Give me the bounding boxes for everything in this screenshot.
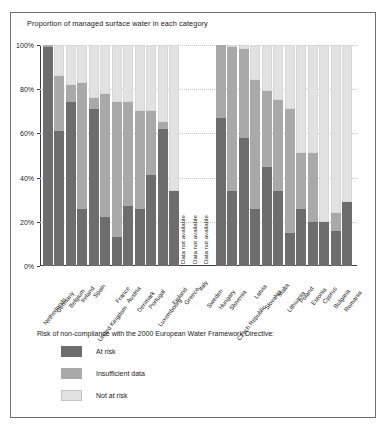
legend-swatch-icon bbox=[61, 390, 82, 401]
bar-segment-insufficient bbox=[100, 94, 110, 218]
bar-segment-insufficient bbox=[239, 49, 249, 137]
bar-segment-not-at-risk bbox=[262, 45, 272, 91]
plot-area: 100%80%60%40%20%0% NetherlandsGermanyBel… bbox=[40, 45, 357, 266]
bar-segment-at-risk bbox=[146, 175, 156, 266]
bar-segment-not-at-risk bbox=[54, 45, 64, 76]
bar-segment-at-risk bbox=[216, 118, 226, 266]
bar-segment-not-at-risk bbox=[169, 45, 179, 191]
bar-greece-no-data: Data not available bbox=[181, 45, 191, 266]
data-not-available-label: Data not available bbox=[179, 215, 186, 264]
bar-segment-not-at-risk bbox=[112, 45, 122, 102]
bar-segment-at-risk bbox=[250, 209, 260, 266]
bar-segment-insufficient bbox=[250, 80, 260, 208]
bar-segment-insufficient bbox=[285, 109, 295, 233]
bar-united-kingdom bbox=[100, 45, 110, 266]
bar-romania bbox=[342, 45, 352, 266]
bar-denmark bbox=[135, 45, 145, 266]
y-tick-label: 0% bbox=[24, 263, 34, 270]
bar-segment-at-risk bbox=[100, 217, 110, 266]
bar-segment-insufficient bbox=[158, 122, 168, 129]
bar-segment-insufficient bbox=[296, 153, 306, 208]
page-title: Proportion of managed surface water in e… bbox=[27, 19, 208, 28]
y-tick-mark bbox=[37, 178, 40, 179]
bar-segment-at-risk bbox=[77, 209, 87, 266]
legend-swatch-icon bbox=[61, 346, 82, 357]
bar-austria bbox=[123, 45, 133, 266]
bar-segment-not-at-risk bbox=[273, 45, 283, 100]
bar-segment-insufficient bbox=[135, 111, 145, 208]
y-tick-label: 40% bbox=[20, 174, 34, 181]
bar-luxembourg bbox=[158, 45, 168, 266]
bar-segment-not-at-risk bbox=[146, 45, 156, 111]
legend-item-not-at-risk[interactable]: Not at risk bbox=[61, 390, 347, 401]
bar-segment-at-risk bbox=[227, 191, 237, 266]
bar-cyprus bbox=[319, 45, 329, 266]
bar-segment-insufficient bbox=[216, 45, 226, 118]
bar-hungary bbox=[216, 45, 226, 266]
y-tick-mark bbox=[37, 133, 40, 134]
bar-segment-not-at-risk bbox=[100, 45, 110, 94]
y-tick-label: 60% bbox=[20, 130, 34, 137]
bar-segment-at-risk bbox=[285, 233, 295, 266]
legend-items: At riskInsufficient dataNot at risk bbox=[37, 346, 347, 401]
bar-belgium bbox=[66, 45, 76, 266]
data-not-available-label: Data not available bbox=[202, 215, 209, 264]
legend-item-label: Not at risk bbox=[96, 392, 128, 399]
legend-item-at-risk[interactable]: At risk bbox=[61, 346, 347, 357]
bar-segment-insufficient bbox=[262, 91, 272, 166]
bar-segment-not-at-risk bbox=[308, 45, 318, 153]
bar-segment-insufficient bbox=[66, 85, 76, 103]
y-tick-label: 100% bbox=[16, 42, 34, 49]
bar-bulgaria bbox=[331, 45, 341, 266]
bar-slovenia bbox=[227, 45, 237, 266]
chart-legend: Risk of non-compliance with the 2000 Eur… bbox=[37, 330, 347, 412]
bar-segment-at-risk bbox=[273, 191, 283, 266]
bar-segment-at-risk bbox=[43, 47, 53, 266]
bar-segment-at-risk bbox=[262, 167, 272, 266]
bar-segment-not-at-risk bbox=[296, 45, 306, 153]
bar-segment-not-at-risk bbox=[285, 45, 295, 109]
bar-segment-not-at-risk bbox=[158, 45, 168, 122]
bar-segment-insufficient bbox=[123, 102, 133, 206]
bar-segment-insufficient bbox=[227, 47, 237, 191]
bar-segment-at-risk bbox=[54, 131, 64, 266]
legend-item-label: At risk bbox=[96, 348, 115, 355]
bar-ireland bbox=[77, 45, 87, 266]
bar-segment-insufficient bbox=[112, 102, 122, 237]
y-tick-label: 80% bbox=[20, 86, 34, 93]
bar-italy-no-data: Data not available bbox=[193, 45, 203, 266]
legend-swatch-icon bbox=[61, 368, 82, 379]
legend-item-insufficient-data[interactable]: Insufficient data bbox=[61, 368, 347, 379]
bar-czech-republic bbox=[239, 45, 249, 266]
bar-segment-at-risk bbox=[331, 231, 341, 266]
y-tick-mark bbox=[37, 89, 40, 90]
y-tick-label: 20% bbox=[20, 218, 34, 225]
bar-finland bbox=[169, 45, 179, 266]
bar-segment-at-risk bbox=[169, 191, 179, 266]
bar-segment-insufficient bbox=[89, 98, 99, 109]
bar-segment-not-at-risk bbox=[331, 45, 341, 213]
bar-latvia bbox=[250, 45, 260, 266]
bar-segment-at-risk bbox=[319, 222, 329, 266]
bar-segment-at-risk bbox=[89, 109, 99, 266]
bar-segment-not-at-risk bbox=[342, 45, 352, 202]
bar-segment-insufficient bbox=[146, 111, 156, 175]
y-tick-mark bbox=[37, 266, 40, 267]
bar-segment-at-risk bbox=[123, 206, 133, 266]
y-tick-mark bbox=[37, 222, 40, 223]
bar-segment-not-at-risk bbox=[89, 45, 99, 98]
bar-segment-not-at-risk bbox=[250, 45, 260, 80]
bar-segment-not-at-risk bbox=[77, 45, 87, 83]
bar-segment-at-risk bbox=[158, 129, 168, 266]
legend-title: Risk of non-compliance with the 2000 Eur… bbox=[37, 330, 347, 337]
bar-france bbox=[112, 45, 122, 266]
bar-segment-insufficient bbox=[77, 83, 87, 209]
bar-segment-at-risk bbox=[342, 202, 352, 266]
data-not-available-label: Data not available bbox=[191, 215, 198, 264]
bar-segment-at-risk bbox=[296, 209, 306, 266]
bar-slovakia bbox=[262, 45, 272, 266]
bar-segment-insufficient bbox=[54, 76, 64, 131]
chart-page: Proportion of managed surface water in e… bbox=[0, 0, 387, 430]
bar-poland bbox=[296, 45, 306, 266]
bar-segment-at-risk bbox=[308, 222, 318, 266]
